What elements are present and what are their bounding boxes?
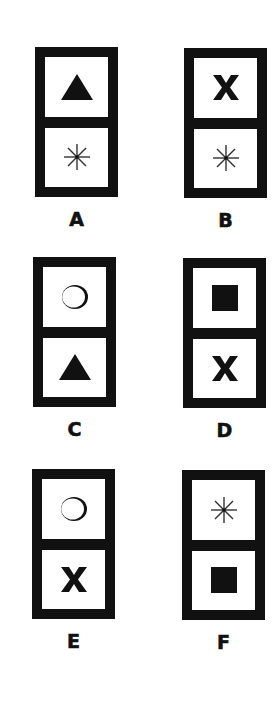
asterisk-icon — [211, 497, 237, 523]
option-d-label: D — [183, 421, 266, 440]
domino-a-top-cell — [45, 57, 108, 117]
domino-e-top-cell — [42, 479, 105, 539]
x-mark-icon — [213, 75, 239, 100]
option-b[interactable]: B — [184, 48, 267, 198]
option-e[interactable]: E — [32, 469, 115, 619]
square-icon — [211, 567, 237, 593]
circle-icon — [61, 284, 89, 310]
option-f[interactable]: F — [182, 470, 265, 620]
square-icon — [212, 285, 238, 311]
domino-e — [32, 469, 115, 619]
domino-c-bottom-cell — [43, 338, 106, 398]
option-e-label: E — [32, 632, 115, 651]
domino-e-bottom-cell — [42, 550, 105, 610]
domino-a-bottom-cell — [45, 128, 108, 188]
option-a-label: A — [35, 210, 118, 229]
option-a[interactable]: A — [35, 47, 118, 197]
x-mark-icon — [212, 356, 238, 381]
domino-b-bottom-cell — [194, 129, 257, 189]
option-b-label: B — [184, 211, 267, 230]
option-c[interactable]: C — [33, 257, 116, 407]
domino-f-bottom-cell — [192, 551, 255, 611]
domino-f — [182, 470, 265, 620]
circle-icon — [60, 496, 88, 522]
domino-d-top-cell — [193, 268, 256, 328]
domino-a — [35, 47, 118, 197]
asterisk-icon — [64, 144, 90, 170]
asterisk-icon — [213, 145, 239, 171]
domino-d — [183, 258, 266, 408]
domino-f-top-cell — [192, 480, 255, 540]
triangle-icon — [59, 354, 91, 380]
x-mark-icon — [61, 567, 87, 592]
option-d[interactable]: D — [183, 258, 266, 408]
domino-d-bottom-cell — [193, 339, 256, 399]
domino-c-top-cell — [43, 267, 106, 327]
triangle-icon — [61, 74, 93, 100]
option-f-label: F — [182, 633, 265, 652]
option-c-label: C — [33, 420, 116, 439]
domino-b-top-cell — [194, 58, 257, 118]
domino-c — [33, 257, 116, 407]
domino-b — [184, 48, 267, 198]
